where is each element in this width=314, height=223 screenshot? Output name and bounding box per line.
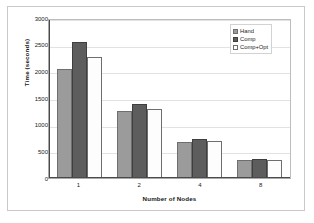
y-axis-tick-label: 3000 [22,16,48,23]
x-axis-tick-label: 1 [48,182,109,188]
bar-comp-opt-2[interactable] [147,109,162,178]
x-axis-line [49,177,290,178]
y-axis-tick-label: 2000 [22,69,48,76]
x-axis-tick-label: 8 [230,182,291,188]
y-axis-tick-label: 1500 [22,96,48,103]
bar-series-container [49,20,290,178]
y-axis-line [49,20,50,178]
plot-area [48,19,291,179]
x-axis-tick-label: 2 [109,182,170,188]
x-axis-tick-labels: 1248 [48,182,291,188]
bar-hand-1[interactable] [57,69,72,178]
bar-comp-opt-1[interactable] [87,57,102,178]
bar-comp-opt-4[interactable] [207,141,222,178]
bar-hand-8[interactable] [237,160,252,178]
bar-comp-4[interactable] [192,139,207,178]
bar-comp-opt-8[interactable] [267,160,282,178]
x-axis-tick-label: 4 [170,182,231,188]
bar-group [230,20,290,178]
bar-comp-8[interactable] [252,159,267,178]
y-axis-tick-label: 0 [22,176,48,183]
bar-comp-2[interactable] [132,104,147,178]
y-axis-tick-label: 500 [22,149,48,156]
y-axis-tick-label: 1000 [22,122,48,129]
x-axis-title: Number of Nodes [48,195,291,202]
bar-hand-4[interactable] [177,142,192,178]
bar-group [170,20,230,178]
y-axis-tick-labels: 050010001500200025003000 [22,19,48,183]
bar-comp-1[interactable] [72,42,87,178]
y-axis-tick-label: 2500 [22,42,48,49]
bar-hand-2[interactable] [117,111,132,178]
chart-figure: Time (seconds) 050010001500200025003000 … [7,6,305,211]
bar-group [49,20,109,178]
bar-group [109,20,169,178]
